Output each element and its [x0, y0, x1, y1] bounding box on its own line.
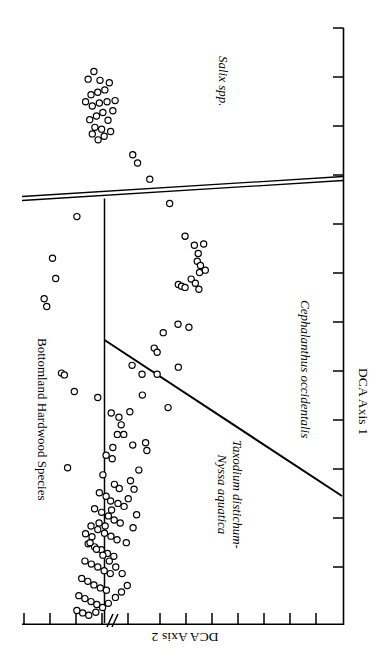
data-point [89, 534, 95, 540]
data-point [85, 578, 91, 584]
data-point [110, 444, 116, 450]
data-point [125, 496, 131, 502]
point-group [74, 152, 173, 220]
data-point [124, 582, 130, 588]
data-point [175, 321, 181, 327]
data-point [191, 242, 197, 248]
data-point [85, 76, 91, 82]
data-point [105, 600, 111, 606]
data-point [97, 77, 103, 83]
annotation-taxodium-nyssa: Taxodium distichum- Nyssa aquatica [215, 440, 244, 549]
data-point [182, 284, 188, 290]
data-point [201, 241, 207, 247]
data-point [95, 89, 101, 95]
data-point [139, 392, 145, 398]
dca-ordination-figure: DCA Axis 1 DCA Axis 2 Salix spp. Bottoml… [0, 0, 379, 657]
data-point [88, 92, 94, 98]
data-point [88, 523, 94, 529]
data-point [123, 540, 129, 546]
data-point [192, 280, 198, 286]
data-point [106, 558, 112, 564]
data-point [49, 255, 55, 261]
data-point [87, 540, 93, 546]
scatter-points-layer [41, 68, 208, 618]
data-point [89, 103, 95, 109]
partition-line-salix [22, 177, 343, 201]
data-point [95, 137, 101, 143]
data-point [100, 109, 106, 115]
data-point [127, 409, 133, 415]
data-point [107, 571, 113, 577]
data-point [100, 552, 106, 558]
data-point [112, 594, 118, 600]
annotation-taxodium-line-2: Nyssa aquatica [215, 440, 230, 549]
data-point [108, 498, 114, 504]
data-point [167, 200, 173, 206]
data-point [95, 564, 101, 570]
data-point [61, 372, 67, 378]
data-point [131, 486, 137, 492]
data-point [99, 509, 105, 515]
annotation-salix-spp: Salix spp. [215, 56, 230, 107]
data-point [142, 440, 148, 446]
data-point [93, 113, 99, 119]
data-point [160, 330, 166, 336]
data-point [105, 117, 111, 123]
data-point [88, 561, 94, 567]
data-point [102, 87, 108, 93]
data-point [136, 467, 142, 473]
data-point [147, 176, 153, 182]
data-point [130, 152, 136, 158]
data-point [118, 422, 124, 428]
data-point [139, 371, 145, 377]
data-point [130, 442, 136, 448]
point-group [139, 233, 208, 411]
data-point [134, 512, 140, 518]
data-point [41, 296, 47, 302]
data-point [93, 546, 99, 552]
data-point [101, 133, 107, 139]
data-point [117, 520, 123, 526]
data-point [144, 447, 150, 453]
data-point [101, 530, 107, 536]
data-point [91, 582, 97, 588]
data-point [91, 506, 97, 512]
data-point [86, 612, 92, 618]
data-point [112, 97, 118, 103]
data-point [115, 500, 121, 506]
annotation-cephalanthus-occidentalis: Cephalanthus occidentalis [297, 300, 312, 438]
data-point [116, 414, 122, 420]
data-point [104, 99, 110, 105]
data-point [103, 587, 109, 593]
data-point [113, 564, 119, 570]
data-point [196, 286, 202, 292]
data-point [76, 593, 82, 599]
point-group [82, 68, 118, 143]
data-point [91, 68, 97, 74]
data-point [106, 80, 112, 86]
data-point [108, 128, 114, 134]
data-point [118, 589, 124, 595]
data-point [175, 364, 181, 370]
data-point [105, 513, 111, 519]
data-point [119, 571, 125, 577]
data-point [134, 160, 140, 166]
axis-ticks-dca-axis-2 [24, 613, 316, 624]
data-point [129, 362, 135, 368]
axis-label-dca-axis-2: DCA Axis 2 [110, 630, 260, 645]
data-point [96, 490, 102, 496]
data-point [116, 485, 122, 491]
data-point [130, 525, 136, 531]
data-point [103, 452, 109, 458]
data-point [114, 431, 120, 437]
data-point [95, 526, 101, 532]
axis-ticks-dca-axis-1 [333, 28, 344, 567]
data-point [121, 503, 127, 509]
data-point [82, 531, 88, 537]
data-point [154, 349, 160, 355]
data-point [186, 324, 192, 330]
data-point [44, 303, 50, 309]
data-point [182, 233, 188, 239]
data-point [202, 267, 208, 273]
data-point [109, 456, 115, 462]
